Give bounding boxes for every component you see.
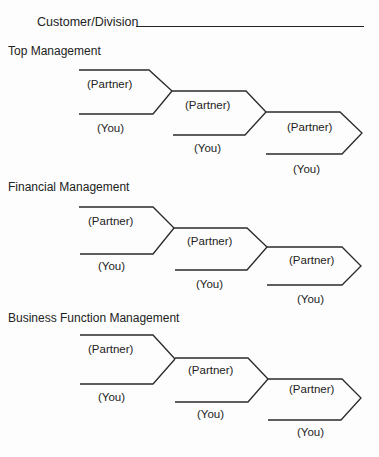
stage-2-partner-label: (Partner) [185,99,231,111]
stage-2-partner-label: (Partner) [187,235,233,247]
stage-3-you-label: (You) [297,426,324,438]
stage-1-you-label: (You) [97,122,124,134]
partner-progression-diagram: (Partner) (You) (Partner) (You) (Partner… [0,0,379,457]
stage-1-you-label: (You) [98,391,125,403]
stage-1-partner-label: (Partner) [88,343,134,355]
stage-2-you-line [173,112,266,135]
stage-1-you-line [79,91,172,114]
stage-1-you-label: (You) [98,260,125,272]
stage-2-partner-label: (Partner) [188,364,234,376]
stage-3-partner-label: (Partner) [289,383,335,395]
stage-1-you-line [80,228,174,254]
stage-1-you-line [80,359,175,384]
stage-2-you-line [175,379,268,402]
funnel-business-function-management: (Partner) (You) (Partner) (You) (Partner… [80,335,361,438]
stage-2-you-label: (You) [196,278,223,290]
stage-3-arrow [266,112,362,154]
stage-1-partner-label: (Partner) [88,215,134,227]
stage-3-you-label: (You) [297,293,324,305]
funnel-top-management: (Partner) (You) (Partner) (You) (Partner… [79,70,362,175]
stage-3-partner-label: (Partner) [287,121,333,133]
stage-3-arrow [267,247,361,285]
stage-2-you-label: (You) [194,142,221,154]
stage-2-you-label: (You) [197,408,224,420]
stage-2-you-line [175,247,267,270]
stage-1-partner-label: (Partner) [87,78,133,90]
stage-3-you-label: (You) [293,163,320,175]
funnel-financial-management: (Partner) (You) (Partner) (You) (Partner… [79,207,361,305]
stage-3-partner-label: (Partner) [289,254,335,266]
